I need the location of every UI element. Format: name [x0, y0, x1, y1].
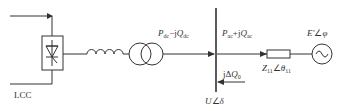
arrow-icon	[208, 51, 215, 57]
source-label: E'∠φ	[307, 29, 327, 38]
sine-wave-icon	[316, 51, 328, 57]
transformer-secondary-icon	[141, 43, 163, 65]
ac-power-label: Pac+jQac	[222, 29, 252, 39]
arrow-icon	[260, 51, 267, 57]
transformer-primary-icon	[129, 43, 151, 65]
dc-power-label: Pdc−jQdc	[158, 29, 189, 39]
compensation-label: jΔQ0	[223, 70, 241, 80]
inductor-icon	[87, 50, 123, 55]
circuit-diagram	[0, 0, 342, 111]
impedance-label: Z11∠θ11	[262, 64, 291, 74]
bus-voltage-label: U∠δ	[205, 97, 224, 106]
lcc-label: LCC	[14, 91, 32, 100]
impedance-icon	[267, 50, 290, 58]
